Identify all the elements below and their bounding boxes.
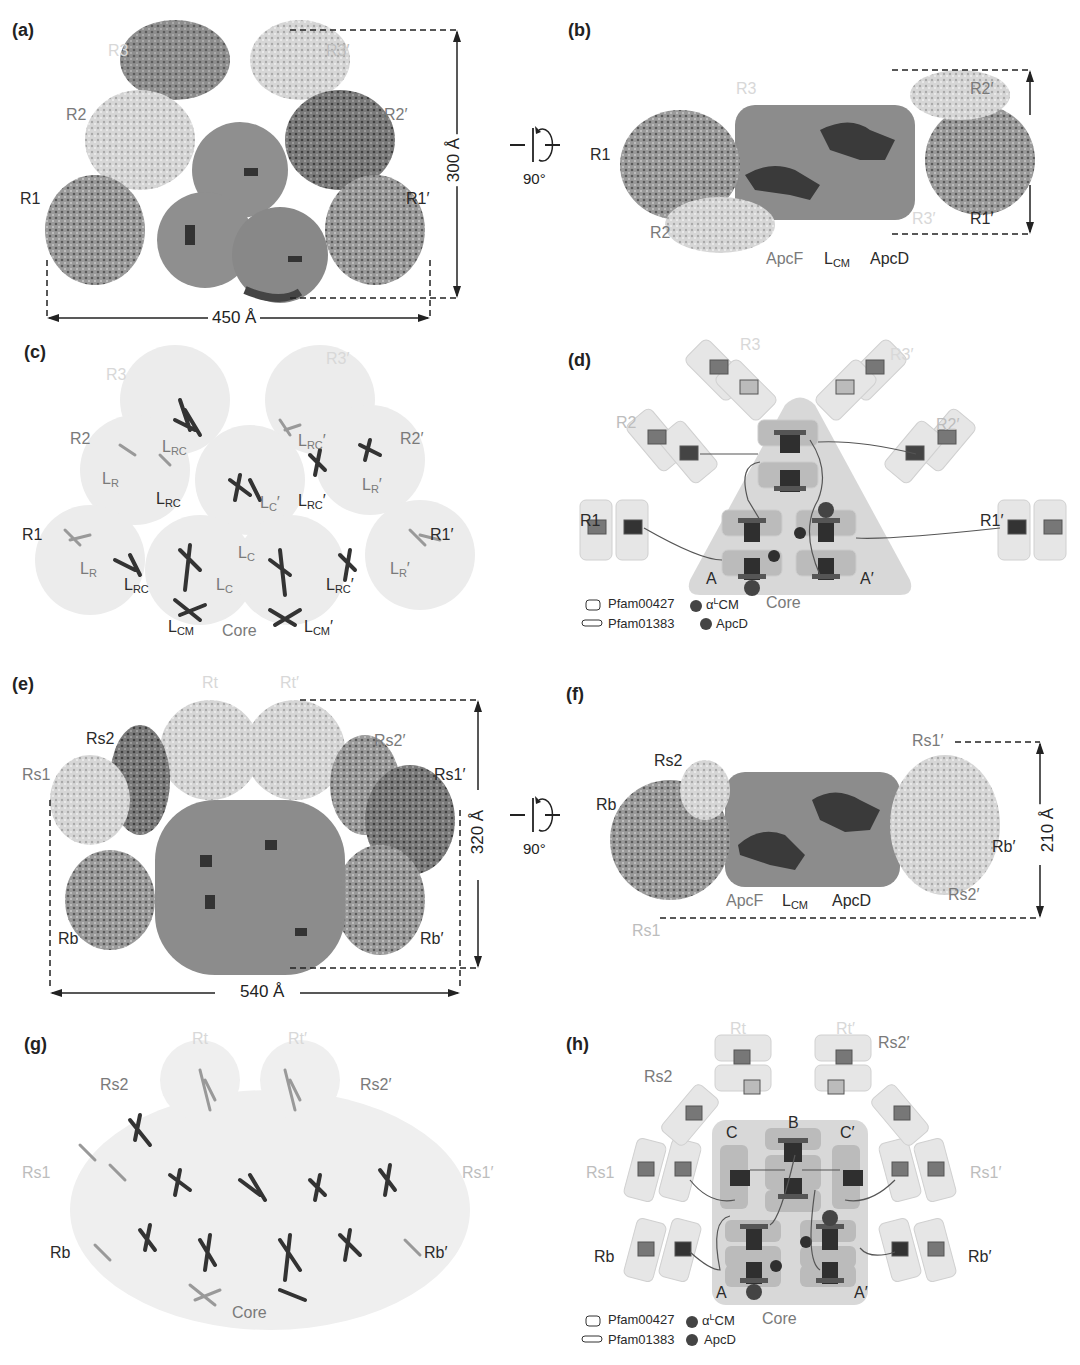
label-R2: R2 [70,430,90,448]
rod-label-Rb: Rb [58,930,78,948]
width-dimension: 450 Å [208,308,260,328]
pbs-structure-side-view-f [540,660,1080,960]
label-Rs1: Rs1 [632,922,660,940]
label-ApcD: ApcD [832,892,871,910]
linker-cartoon-view [0,330,540,650]
label-Rs2p: Rs2′ [360,1076,391,1094]
label-LRC-R3: LRC [162,438,187,457]
label-R2p: R2′ [400,430,423,448]
label-A: A [706,570,717,588]
pbs-structure-side-view [540,0,1080,300]
panel-e: (e) Rt Rt′ Rs2 Rs2′ Rs1 Rs1′ Rb Rb′ 540 … [0,660,540,1020]
label-LRCp-R2p: LRC′ [298,492,326,511]
label-R3p: R3′ [890,346,913,364]
label-ApcD: ApcD [870,250,909,268]
label-LRC-R1: LRC [124,576,149,595]
label-Rs1p: Rs1′ [970,1164,1001,1182]
rod-label-R3p: R3′ [326,42,349,60]
legend-alpha-lcm: αLCM [706,596,739,612]
label-C: C [726,1124,738,1142]
label-LCMp: LCM′ [304,618,333,637]
rod-label-Rs1p: Rs1′ [434,766,465,784]
rod-label-Rtp: Rt′ [280,674,299,692]
label-ApcF: ApcF [766,250,803,268]
label-B: B [788,1114,799,1132]
label-Rs2: Rs2 [644,1068,672,1086]
label-R2: R2 [650,224,670,242]
panel-c: (c) R3 R3′ R2 R2′ R1 R1′ LR LRC LRC LRC′… [0,330,540,650]
label-LRCp-R3p: LRC′ [298,432,326,451]
label-LCM: LCM [824,250,850,269]
label-Rs1: Rs1 [22,1164,50,1182]
label-Rs2p: Rs2′ [878,1034,909,1052]
label-LRC-R2: LRC [156,490,181,509]
label-A: A [716,1284,727,1302]
label-Ap: A′ [854,1284,868,1302]
label-core: Core [232,1304,267,1322]
panel-f: (f) Rs2 Rb Rs1 Rs1′ Rb′ Rs2′ ApcF LCM Ap… [540,660,1080,960]
label-LRp-R1p: LR′ [390,560,410,579]
legend-apcd: ApcD [704,1332,736,1347]
label-Rbp: Rb′ [968,1248,991,1266]
label-LCM: LCM [782,892,808,911]
legend-pfam00427: Pfam00427 [608,596,675,611]
rod-label-Rs1: Rs1 [22,766,50,784]
label-LRp-R2p: LR′ [362,476,382,495]
label-Rb: Rb [594,1248,614,1266]
linker-cartoon-view-g [0,1020,540,1365]
height-dimension: 320 Å [468,806,488,858]
pbs-structure-front-view-e [0,660,540,1020]
label-Rs1p: Rs1′ [912,732,943,750]
label-core: Core [766,594,801,612]
label-R3p: R3′ [326,350,349,368]
legend-apcd: ApcD [716,616,748,631]
label-Cp: C′ [840,1124,855,1142]
label-Rs2: Rs2 [100,1076,128,1094]
label-core: Core [762,1310,797,1328]
rod-label-Rbp: Rb′ [420,930,443,948]
label-Rb: Rb [50,1244,70,1262]
rod-label-R1p: R1′ [406,190,429,208]
label-Rtp: Rt′ [836,1020,855,1038]
label-Rtp: Rt′ [288,1030,307,1048]
legend-pfam00427: Pfam00427 [608,1312,675,1327]
label-Rs2p: Rs2′ [948,886,979,904]
label-Ap: A′ [860,570,874,588]
legend-pfam01383: Pfam01383 [608,616,675,631]
label-R1: R1 [580,512,600,530]
label-R3: R3 [736,80,756,98]
rod-label-Rs2: Rs2 [86,730,114,748]
label-R3: R3 [106,366,126,384]
rod-label-R2: R2 [66,106,86,124]
label-Rbp: Rb′ [424,1244,447,1262]
label-R2p: R2′ [970,80,993,98]
rod-label-R3: R3 [108,42,128,60]
label-LC-center: LC [238,544,255,563]
label-Rt: Rt [730,1020,746,1038]
panel-d: (d) [560,330,1080,650]
label-LR-R1: LR [80,560,97,579]
label-Rs1p: Rs1′ [462,1164,493,1182]
label-R3p: R3′ [912,210,935,228]
label-LCp-top: LC′ [260,494,280,513]
rod-label-R2p: R2′ [384,106,407,124]
label-R3: R3 [740,336,760,354]
label-LR-R2: LR [102,470,119,489]
label-R2: R2 [616,414,636,432]
label-R1: R1 [22,526,42,544]
label-R1p: R1′ [970,210,993,228]
height-dimension: 210 Å [1038,804,1058,856]
label-R1: R1 [590,146,610,164]
panel-b: (b) R3 R1 R2 R2′ R1′ R3′ ApcF LCM ApcD [540,0,1080,300]
panel-a: (a) R3 [0,0,540,330]
rod-label-R1: R1 [20,190,40,208]
label-Rs2: Rs2 [654,752,682,770]
label-R1p: R1′ [430,526,453,544]
legend-alpha-lcm: αLCM [702,1312,735,1328]
label-R2p: R2′ [936,416,959,434]
label-Rs1: Rs1 [586,1164,614,1182]
rod-label-Rs2p: Rs2′ [374,732,405,750]
legend-pfam01383: Pfam01383 [608,1332,675,1347]
width-dimension: 540 Å [236,982,288,1002]
label-LRCp-R1p: LRC′ [326,576,354,595]
